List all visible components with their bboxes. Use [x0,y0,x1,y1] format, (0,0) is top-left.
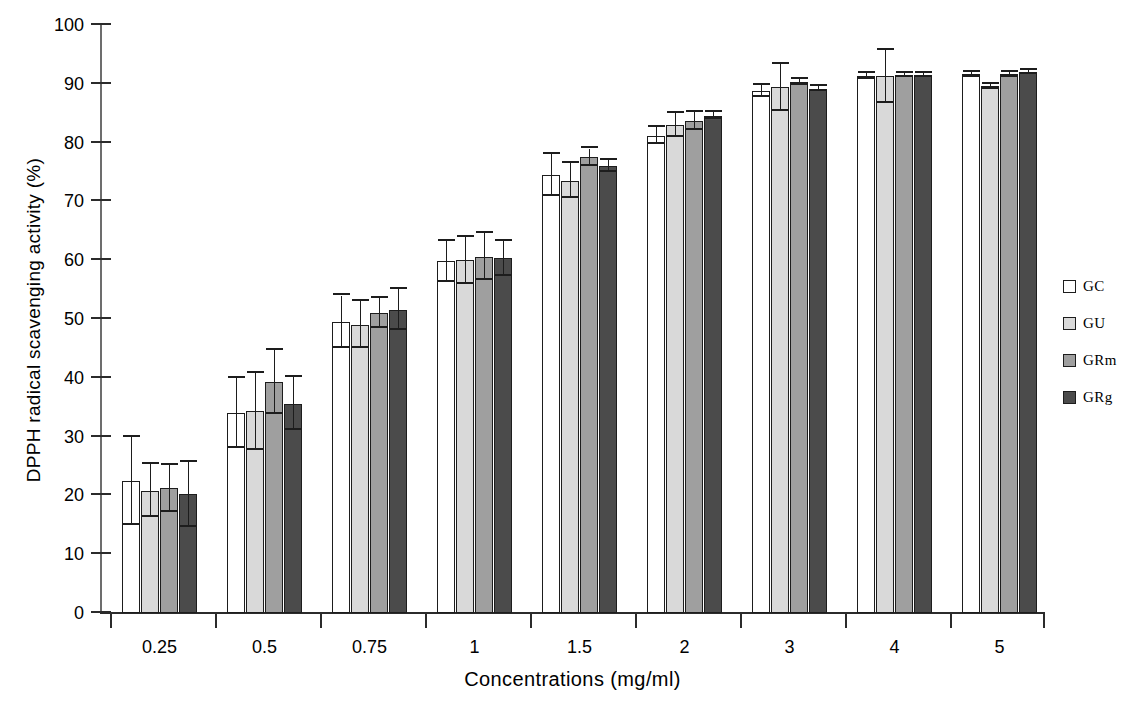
legend-swatch-icon [1063,317,1076,330]
error-bar-cap-bottom [352,346,369,348]
error-bar-cap-top [333,293,350,295]
legend-swatch-icon [1063,354,1076,367]
error-bar-cap-top [371,296,388,298]
error-bar-cap-bottom [285,428,302,430]
error-bar-cap-top [438,239,455,241]
bar-grg-1.5 [599,166,617,613]
bar-gu-4 [876,76,894,613]
x-tick-label: 5 [960,637,1040,657]
y-tick-label: 70 [40,192,84,210]
error-bar-cap-bottom [1001,75,1018,77]
error-bar-cap-bottom [476,278,493,280]
y-tick-label: 80 [40,134,84,152]
error-bar-line [236,378,237,449]
error-bar-cap-top [915,71,932,73]
y-axis-line [100,25,102,614]
bar-grg-2 [704,116,722,613]
bar-gc-2 [647,136,665,613]
error-bar-cap-top [982,82,999,84]
legend-label: GRm [1083,352,1117,369]
error-bar-cap-top [476,231,493,233]
error-bar-cap-bottom [896,75,913,77]
error-bar-cap-bottom [791,83,808,85]
error-bar-cap-bottom [247,448,264,450]
x-tick-label: 1 [435,637,515,657]
bar-gu-1.5 [561,181,579,613]
error-bar-line [169,465,170,512]
error-bar-cap-bottom [810,89,827,91]
error-bar-cap-bottom [333,346,350,348]
error-bar-cap-top [285,375,302,377]
x-tick-label: 0.5 [225,637,305,657]
legend-item-grm[interactable]: GRm [1063,346,1139,374]
legend-item-grg[interactable]: GRg [1063,383,1139,411]
error-bar-line [503,241,504,276]
bar-grg-4 [914,75,932,613]
y-tick-label: 100 [40,16,84,34]
y-tick [91,493,111,495]
error-bar-line [188,462,189,527]
error-bar-cap-top [543,152,560,154]
error-bar-cap-bottom [877,101,894,103]
bar-grm-3 [790,82,808,613]
error-bar-line [360,301,361,348]
error-bar-cap-top [877,48,894,50]
error-bar-cap-bottom [180,525,197,527]
legend-item-gu[interactable]: GU [1063,309,1139,337]
y-tick [91,611,111,613]
plot-area: 0.250.50.7511.52345 [100,25,1045,613]
bar-gc-1.5 [542,175,560,613]
error-bar-line [885,50,886,103]
bar-grm-2 [685,121,703,613]
error-bar-cap-top [228,376,245,378]
error-bar-cap-top [390,287,407,289]
x-tick [740,612,742,628]
bar-gu-0.75 [351,325,369,613]
y-tick-label: 60 [40,251,84,269]
x-tick [845,612,847,628]
error-bar-cap-top [791,77,808,79]
error-bar-cap-bottom [963,75,980,77]
legend-swatch-icon [1063,391,1076,404]
bar-gc-1 [437,261,455,613]
error-bar-cap-top [858,71,875,73]
error-bar-cap-top [161,463,178,465]
error-bar-cap-top [457,235,474,237]
y-tick-label: 0 [40,604,84,622]
y-tick [91,376,111,378]
error-bar-cap-top [1020,68,1037,70]
error-bar-cap-bottom [228,446,245,448]
legend-label: GC [1083,278,1105,295]
error-bar-cap-top [705,110,722,112]
error-bar-cap-top [352,299,369,301]
legend-item-gc[interactable]: GC [1063,272,1139,300]
error-bar-cap-bottom [772,109,789,111]
bar-gu-2 [666,125,684,613]
bar-grg-5 [1019,72,1037,613]
x-tick [215,612,217,628]
error-bar-line [484,233,485,280]
error-bar-cap-bottom [123,523,140,525]
x-tick-label: 2 [645,637,725,657]
x-tick [950,612,952,628]
bar-gu-1 [456,260,474,613]
error-bar-cap-top [686,110,703,112]
y-tick [91,141,111,143]
error-bar-cap-bottom [600,170,617,172]
bar-grm-5 [1000,74,1018,613]
bar-grg-0.75 [389,310,407,613]
y-tick-label: 40 [40,369,84,387]
error-bar-cap-bottom [438,280,455,282]
x-axis-title: Concentrations (mg/ml) [100,668,1045,691]
y-tick [91,552,111,554]
x-tick-label: 0.25 [120,637,200,657]
error-bar-cap-top [1001,70,1018,72]
error-bar-cap-bottom [648,142,665,144]
error-bar-line [465,237,466,284]
y-tick [91,435,111,437]
error-bar-cap-top [581,146,598,148]
error-bar-cap-top [247,371,264,373]
error-bar-line [780,64,781,111]
error-bar-cap-top [772,62,789,64]
bar-grg-1 [494,258,512,613]
